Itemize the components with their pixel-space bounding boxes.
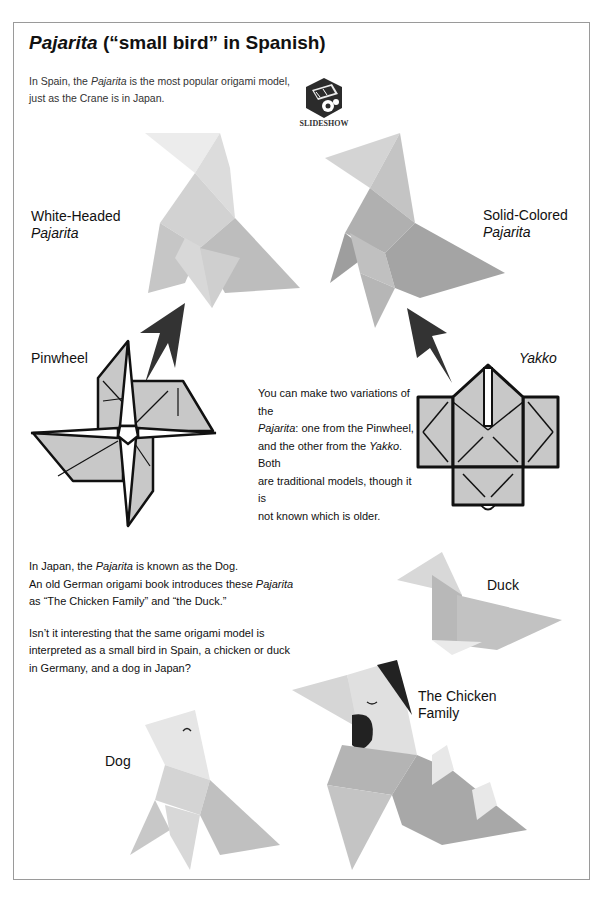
white-headed-pajarita-image [140, 128, 305, 313]
title-rest: (“small bird” in Spanish) [98, 32, 326, 53]
text-line: as “The Chicken Family” and “the Duck.” [29, 595, 226, 607]
intro-text: is the most popular origami model, [127, 75, 290, 87]
text-line: In Japan, the [29, 560, 96, 572]
slideshow-button[interactable]: SLIDESHOW [298, 76, 350, 132]
text-italic: Pajarita [256, 578, 293, 590]
label-line: Family [418, 705, 459, 721]
text-line: Isn’t it interesting that the same origa… [29, 627, 264, 639]
text-italic: Pajarita [258, 422, 295, 434]
text-line: are traditional models, though it is [258, 475, 411, 505]
title-italic: Pajarita [29, 32, 98, 53]
text-line: not known which is older. [258, 510, 380, 522]
dog-label: Dog [105, 753, 131, 770]
text-line: : one from the Pinwheel, [295, 422, 414, 434]
dog-image [125, 705, 285, 875]
label-line: White-Headed [31, 208, 121, 224]
text-line: You can make two variations of the [258, 387, 410, 417]
solid-colored-pajarita-label: Solid-Colored Pajarita [483, 207, 568, 241]
text-line: An old German origami book introduces th… [29, 578, 256, 590]
intro-paragraph: In Spain, the Pajarita is the most popul… [29, 73, 299, 107]
label-line-italic: Pajarita [31, 225, 78, 241]
duck-image [392, 550, 567, 660]
variations-paragraph: You can make two variations of the Pajar… [258, 385, 418, 525]
text-line: and the other from the [258, 440, 369, 452]
label-line: The Chicken [418, 688, 497, 704]
text-line: is known as the Dog. [133, 560, 238, 572]
text-italic: Yakko [369, 440, 399, 452]
chicken-family-image [292, 660, 542, 880]
duck-label: Duck [487, 577, 519, 594]
text-line: in Germany, and a dog in Japan? [29, 662, 191, 674]
solid-colored-pajarita-image [315, 128, 510, 328]
text-italic: Pajarita [96, 560, 133, 572]
chicken-family-label: The Chicken Family [418, 688, 497, 722]
label-line-italic: Pajarita [483, 224, 530, 240]
page-title: Pajarita (“small bird” in Spanish) [29, 32, 326, 54]
film-reel-cube-icon [298, 76, 350, 120]
intro-text: just as the Crane is in Japan. [29, 92, 164, 104]
text-line: interpreted as a small bird in Spain, a … [29, 644, 290, 656]
pinwheel-diagram [28, 336, 223, 531]
slideshow-label: SLIDESHOW [298, 119, 350, 128]
intro-text: In Spain, the [29, 75, 91, 87]
white-headed-pajarita-label: White-Headed Pajarita [31, 208, 121, 242]
label-line: Solid-Colored [483, 207, 568, 223]
yakko-diagram [413, 362, 565, 512]
intro-italic: Pajarita [91, 75, 127, 87]
